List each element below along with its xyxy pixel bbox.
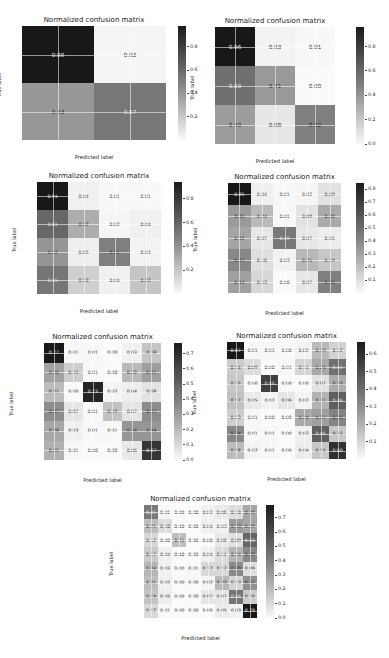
gridline: [330, 183, 331, 293]
gridline: [144, 554, 257, 555]
chart-title: Normalized confusion matrix: [228, 173, 341, 181]
colorbar-tick: 0.0: [368, 141, 376, 146]
x-axis-title: Predicted label: [44, 477, 161, 483]
colorbar-tick: 0.4: [368, 238, 376, 243]
gridline: [84, 182, 85, 294]
chart-title: Normalized confusion matrix: [37, 172, 161, 180]
colorbar-tick: 0.2: [186, 427, 194, 432]
x-axis-title: Predicted label: [37, 308, 161, 314]
gridline: [250, 505, 251, 618]
colorbar-tick: 0.8: [190, 44, 198, 49]
colorbar-tick: 0.0: [278, 615, 286, 620]
y-axis-title: True label: [189, 75, 195, 99]
gridline: [227, 401, 346, 402]
colorbar: [174, 182, 182, 294]
y-axis-title: True label: [108, 551, 114, 575]
gridline: [144, 597, 257, 598]
gridline: [228, 282, 341, 283]
colorbar-tick: 0.6: [190, 67, 198, 72]
gridline: [144, 611, 257, 612]
gridline: [315, 27, 316, 144]
x-axis-title: Predicted label: [227, 476, 346, 482]
colorbar-tick: 0.3: [368, 251, 376, 256]
colorbar-tick: 0.6: [368, 212, 376, 217]
gridline: [307, 183, 308, 293]
colorbar-tick: 0.8: [368, 186, 376, 191]
colorbar-tick: 0.5: [186, 381, 194, 386]
colorbar-tick: 0.6: [278, 529, 286, 534]
chart-title: Normalized confusion matrix: [144, 495, 257, 503]
gridline: [37, 280, 161, 281]
colorbar-tick: 0.4: [368, 92, 376, 97]
colorbar-tick: 0.6: [186, 220, 194, 225]
chart-title: Normalized confusion matrix: [215, 17, 335, 25]
x-axis-title: Predicted label: [144, 635, 257, 641]
heatmap-grid: 0.980.020.430.57: [22, 26, 166, 140]
y-axis-title: True label: [8, 391, 14, 415]
colorbar-tick: 0.3: [369, 404, 377, 409]
gridline: [44, 353, 161, 354]
gridline: [44, 372, 161, 373]
gridline: [132, 343, 133, 460]
colorbar-tick: 0.7: [278, 515, 286, 520]
gridline: [73, 343, 74, 460]
gridline: [304, 342, 305, 459]
gridline: [130, 26, 131, 140]
colorbar-tick: 0.2: [186, 267, 194, 272]
colorbar-tick: 0.7: [368, 199, 376, 204]
colorbar-tick: 0.5: [368, 225, 376, 230]
gridline: [222, 505, 223, 618]
gridline: [227, 417, 346, 418]
gridline: [144, 526, 257, 527]
gridline: [208, 505, 209, 618]
colorbar-tick: 0.3: [278, 572, 286, 577]
gridline: [146, 182, 147, 294]
gridline: [22, 112, 166, 113]
heatmap-grid: 0.770.010.010.000.030.180.300.150.010.00…: [44, 343, 161, 460]
heatmap-grid: 0.940.040.010.010.610.320.020.040.420.05…: [37, 182, 161, 294]
colorbar-tick: 0.2: [369, 421, 377, 426]
gridline: [165, 505, 166, 618]
x-axis-title: Predicted label: [215, 158, 335, 164]
gridline: [37, 196, 161, 197]
gridline: [338, 342, 339, 459]
gridline: [58, 26, 59, 140]
gridline: [144, 583, 257, 584]
gridline: [44, 411, 161, 412]
gridline: [37, 252, 161, 253]
colorbar-tick: 0.6: [369, 351, 377, 356]
colorbar-tick: 0.8: [186, 196, 194, 201]
colorbar-tick: 0.4: [369, 386, 377, 391]
colorbar-tick: 0.7: [186, 351, 194, 356]
colorbar-tick: 0.4: [278, 558, 286, 563]
colorbar-tick: 0.5: [278, 543, 286, 548]
gridline: [115, 182, 116, 294]
gridline: [112, 343, 113, 460]
gridline: [144, 540, 257, 541]
gridline: [144, 512, 257, 513]
colorbar-tick: 0.6: [186, 366, 194, 371]
colorbar-tick: 0.0: [186, 457, 194, 462]
colorbar: [356, 27, 364, 144]
gridline: [44, 450, 161, 451]
gridline: [228, 260, 341, 261]
gridline: [44, 431, 161, 432]
colorbar-tick: 0.8: [368, 44, 376, 49]
y-axis-title: True label: [192, 228, 198, 252]
gridline: [53, 182, 54, 294]
x-axis-title: Predicted label: [228, 310, 341, 316]
colorbar-tick: 0.5: [369, 369, 377, 374]
gridline: [151, 343, 152, 460]
gridline: [37, 224, 161, 225]
colorbar-tick: 0.1: [369, 439, 377, 444]
y-axis-title: True label: [191, 390, 197, 414]
y-axis-title: True label: [0, 73, 2, 97]
colorbar: [178, 26, 186, 140]
gridline: [93, 343, 94, 460]
gridline: [179, 505, 180, 618]
chart-title: Normalized confusion matrix: [227, 332, 346, 340]
colorbar-tick: 0.2: [368, 117, 376, 122]
colorbar-tick: 0.2: [368, 264, 376, 269]
chart-title: Normalized confusion matrix: [22, 16, 166, 24]
gridline: [227, 434, 346, 435]
